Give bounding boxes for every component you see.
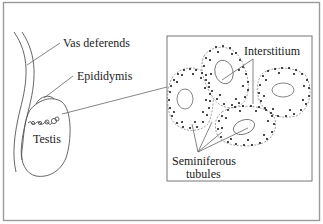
- testis-label: Testis: [33, 132, 61, 146]
- vas-deferens-label: Vas deferends: [63, 36, 130, 50]
- testis-diagram: Vas deferends Epididymis Testis: [0, 0, 323, 224]
- seminiferous-label-line1: Seminiferous: [172, 154, 236, 168]
- seminiferous-label-line2: tubules: [186, 167, 221, 181]
- interstitium-label: Interstitium: [244, 44, 301, 58]
- epididymis-label: Epididymis: [77, 69, 133, 83]
